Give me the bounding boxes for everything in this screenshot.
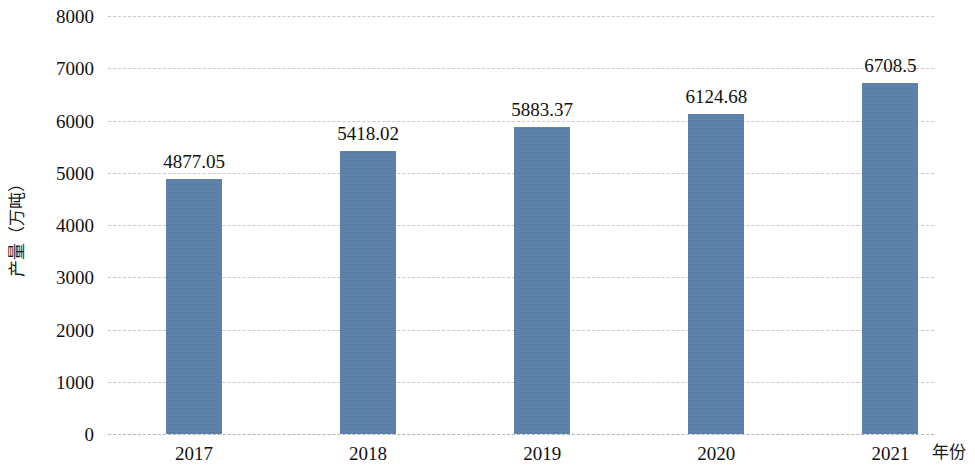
x-axis-tick-label: 2021 xyxy=(871,444,909,463)
x-axis-tick-label: 2019 xyxy=(523,444,561,463)
y-axis-tick-label: 5000 xyxy=(8,163,108,182)
bar-value-label: 5883.37 xyxy=(511,100,573,119)
bar-chart: 产量（万吨） 010002000300040005000600070008000… xyxy=(0,0,975,472)
bar xyxy=(340,151,396,434)
x-axis-tick-label: 2020 xyxy=(697,444,735,463)
y-axis-tick-label: 0 xyxy=(8,425,108,444)
y-axis-tick-label: 4000 xyxy=(8,216,108,235)
y-axis-tick-label: 3000 xyxy=(8,268,108,287)
y-axis-tick-label: 2000 xyxy=(8,320,108,339)
x-axis-tick-label: 2017 xyxy=(175,444,213,463)
plot-area: 4877.0520175418.0220185883.3720196124.68… xyxy=(108,0,934,472)
y-axis-tick-labels: 010002000300040005000600070008000 xyxy=(0,0,108,472)
x-axis-line xyxy=(108,434,934,435)
bar-value-label: 6708.5 xyxy=(864,56,916,75)
bar xyxy=(862,83,918,434)
y-axis-tick-label: 6000 xyxy=(8,111,108,130)
y-axis-tick-label: 1000 xyxy=(8,372,108,391)
gridline xyxy=(108,16,934,17)
x-axis-tick-label: 2018 xyxy=(349,444,387,463)
bar xyxy=(688,114,744,434)
bar-value-label: 6124.68 xyxy=(685,87,747,106)
x-axis-title: 年份 xyxy=(932,444,966,461)
y-axis-tick-label: 7000 xyxy=(8,59,108,78)
bar xyxy=(514,127,570,434)
y-axis-tick-label: 8000 xyxy=(8,7,108,26)
bar-value-label: 4877.05 xyxy=(163,152,225,171)
bar xyxy=(166,179,222,434)
gridline xyxy=(108,121,934,122)
gridline xyxy=(108,68,934,69)
bar-value-label: 5418.02 xyxy=(337,124,399,143)
